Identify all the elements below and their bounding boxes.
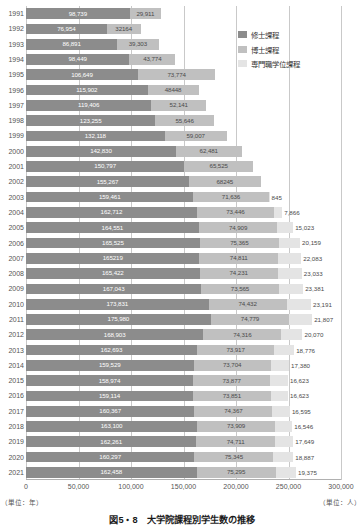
- bar-segment[interactable]: [289, 314, 312, 325]
- bar-segment[interactable]: 29,911: [130, 8, 161, 19]
- bar-segment[interactable]: 162,261: [26, 436, 196, 447]
- bar-segment[interactable]: 73,565: [201, 284, 278, 295]
- bar-segment[interactable]: [275, 436, 294, 447]
- bar-segment[interactable]: 162,712: [26, 207, 197, 218]
- bar-segment[interactable]: 162,693: [26, 345, 197, 356]
- bar-segment[interactable]: [274, 207, 282, 218]
- bar-group[interactable]: 168,90374,31620,070: [26, 329, 341, 340]
- bar-segment[interactable]: 115,902: [26, 85, 148, 96]
- bar-segment[interactable]: 164,551: [26, 222, 199, 233]
- bar-group[interactable]: 160,29775,34518,887: [26, 452, 341, 463]
- bar-segment[interactable]: 73,446: [197, 207, 274, 218]
- bar-segment[interactable]: 159,461: [26, 192, 193, 203]
- bar-segment[interactable]: [281, 329, 302, 340]
- bar-segment[interactable]: 119,406: [26, 100, 151, 111]
- bar-group[interactable]: 158,97473,87716,623: [26, 375, 341, 386]
- bar-segment[interactable]: 74,779: [211, 314, 290, 325]
- bar-group[interactable]: 119,40652,141: [26, 100, 341, 111]
- bar-group[interactable]: 123,25555,646: [26, 115, 341, 126]
- bar-group[interactable]: 162,69373,91718,776: [26, 345, 341, 356]
- bar-group[interactable]: 115,90248448: [26, 85, 341, 96]
- bar-segment[interactable]: 48448: [148, 85, 199, 96]
- bar-segment[interactable]: 76,954: [26, 24, 107, 35]
- bar-segment[interactable]: 168,903: [26, 329, 203, 340]
- bar-segment[interactable]: 165,525: [26, 238, 200, 249]
- bar-group[interactable]: 150,79765,525: [26, 161, 341, 172]
- bar-segment[interactable]: 59,007: [165, 131, 227, 142]
- bar-segment[interactable]: 75,295: [197, 467, 276, 478]
- bar-segment[interactable]: 73,704: [194, 360, 271, 371]
- legend-item[interactable]: 修士課程: [238, 29, 348, 40]
- bar-segment[interactable]: 62,481: [176, 146, 242, 157]
- bar-segment[interactable]: 52,141: [151, 100, 206, 111]
- bar-group[interactable]: 162,71273,4467,866: [26, 207, 341, 218]
- bar-segment[interactable]: 73,917: [197, 345, 275, 356]
- bar-group[interactable]: 175,98074,77921,807: [26, 314, 341, 325]
- bar-segment[interactable]: [271, 360, 289, 371]
- bar-segment[interactable]: [278, 253, 301, 264]
- bar-segment[interactable]: [287, 299, 311, 310]
- bar-group[interactable]: 142,83062,481: [26, 146, 341, 157]
- bar-segment[interactable]: 165,422: [26, 268, 200, 279]
- bar-group[interactable]: 132,11859,007: [26, 131, 341, 142]
- bar-segment[interactable]: [272, 406, 289, 417]
- bar-segment[interactable]: 98,449: [26, 54, 129, 65]
- bar-group[interactable]: 155,26768245: [26, 176, 341, 187]
- bar-segment[interactable]: 162,458: [26, 467, 197, 478]
- bar-group[interactable]: 163,10073,90916,546: [26, 421, 341, 432]
- bar-segment[interactable]: 86,891: [26, 39, 117, 50]
- bar-segment[interactable]: 74,316: [203, 329, 281, 340]
- bar-group[interactable]: 165,42274,23123,033: [26, 268, 341, 279]
- bar-segment[interactable]: 163,100: [26, 421, 197, 432]
- bar-segment[interactable]: 159,529: [26, 360, 194, 371]
- bar-segment[interactable]: 106,649: [26, 69, 138, 80]
- bar-segment[interactable]: 165219: [26, 253, 199, 264]
- bar-group[interactable]: 16521974,81122,083: [26, 253, 341, 264]
- bar-segment[interactable]: [276, 467, 296, 478]
- bar-segment[interactable]: 73,774: [138, 69, 215, 80]
- bar-segment[interactable]: 55,646: [155, 115, 213, 126]
- bar-segment[interactable]: 65,525: [184, 161, 253, 172]
- bar-segment[interactable]: 167,043: [26, 284, 201, 295]
- legend-item[interactable]: 博士課程: [238, 44, 348, 55]
- bar-segment[interactable]: 159,114: [26, 391, 193, 402]
- bar-segment[interactable]: 74,811: [199, 253, 278, 264]
- bar-segment[interactable]: 75,365: [200, 238, 279, 249]
- bar-segment[interactable]: 71,636: [193, 192, 268, 203]
- bar-group[interactable]: 159,52973,70417,380: [26, 360, 341, 371]
- bar-segment[interactable]: 74,432: [209, 299, 287, 310]
- bar-segment[interactable]: 123,255: [26, 115, 155, 126]
- bar-group[interactable]: 159,11473,85116,623: [26, 391, 341, 402]
- bar-segment[interactable]: 73,851: [193, 391, 271, 402]
- bar-segment[interactable]: 142,830: [26, 146, 176, 157]
- bar-segment[interactable]: 173,831: [26, 299, 209, 310]
- bar-segment[interactable]: 43,774: [129, 54, 175, 65]
- bar-segment[interactable]: 132,118: [26, 131, 165, 142]
- bar-group[interactable]: 167,04373,56523,381: [26, 284, 341, 295]
- bar-segment[interactable]: [273, 452, 293, 463]
- bar-segment[interactable]: 160,367: [26, 406, 194, 417]
- bar-segment[interactable]: 32164: [107, 24, 141, 35]
- bar-segment[interactable]: 75,345: [194, 452, 273, 463]
- bar-segment[interactable]: 158,974: [26, 375, 193, 386]
- bar-segment[interactable]: 68245: [189, 176, 261, 187]
- bar-segment[interactable]: 98,739: [26, 8, 130, 19]
- bar-segment[interactable]: 74,367: [194, 406, 272, 417]
- bar-segment[interactable]: 74,909: [199, 222, 278, 233]
- bar-group[interactable]: 162,45875,29519,375: [26, 467, 341, 478]
- bar-segment[interactable]: 175,980: [26, 314, 211, 325]
- bar-group[interactable]: 162,26174,71117,649: [26, 436, 341, 447]
- bar-segment[interactable]: [277, 222, 293, 233]
- bar-segment[interactable]: [270, 375, 287, 386]
- bar-group[interactable]: 159,46171,636845: [26, 192, 341, 203]
- bar-group[interactable]: 173,83174,43223,191: [26, 299, 341, 310]
- bar-segment[interactable]: [279, 284, 304, 295]
- bar-group[interactable]: 98,73929,911: [26, 8, 341, 19]
- bar-segment[interactable]: [271, 391, 288, 402]
- bar-segment[interactable]: 74,711: [196, 436, 274, 447]
- bar-segment[interactable]: 73,877: [193, 375, 271, 386]
- bar-segment[interactable]: 74,231: [200, 268, 278, 279]
- bar-segment[interactable]: [274, 345, 294, 356]
- bar-group[interactable]: 160,36774,36716,595: [26, 406, 341, 417]
- bar-segment[interactable]: 73,909: [197, 421, 275, 432]
